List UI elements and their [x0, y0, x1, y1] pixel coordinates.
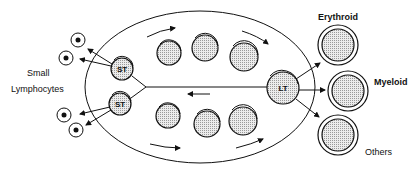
small-lymphocytes-label-line1: Small — [27, 68, 50, 78]
erythroid-cell — [318, 25, 358, 65]
intermediate-cell — [230, 41, 258, 71]
junction-to-st-top — [132, 76, 146, 87]
st-top-label: ST — [117, 65, 127, 74]
small-lymphocyte — [69, 123, 83, 137]
arrow-lt-to-erythroid — [296, 63, 320, 79]
flow-arrow-top-left — [147, 28, 175, 37]
small-lymphocyte — [71, 33, 85, 47]
lt-label: LT — [278, 84, 287, 93]
intermediate-cell — [229, 105, 257, 135]
st-cell-bottom: ST — [109, 91, 131, 115]
flow-arrow-bottom-right — [236, 139, 263, 148]
flow-arrow-bottom-left — [150, 144, 180, 148]
erythroid-label: Erythroid — [318, 12, 358, 22]
myeloid-label: Myeloid — [374, 77, 408, 87]
st-bottom-label: ST — [115, 100, 125, 109]
intermediate-cell — [194, 109, 220, 137]
small-lymphocytes-label-line2: Lymphocytes — [11, 84, 64, 94]
intermediate-cell — [192, 33, 218, 61]
others-label: Others — [365, 147, 393, 157]
small-lymphocyte — [59, 51, 73, 65]
others-cell — [318, 115, 358, 155]
hematopoiesis-diagram: ST ST LT Small Lymphocytes — [0, 0, 420, 170]
st-cell-top: ST — [111, 56, 133, 80]
small-lymphocyte — [57, 108, 71, 122]
flow-arrow-top-right — [242, 31, 268, 44]
intermediate-cell — [157, 40, 181, 65]
intermediate-cell — [156, 103, 180, 128]
lt-cell: LT — [267, 70, 299, 104]
junction-to-st-bottom — [131, 87, 146, 98]
myeloid-cell — [328, 71, 368, 111]
